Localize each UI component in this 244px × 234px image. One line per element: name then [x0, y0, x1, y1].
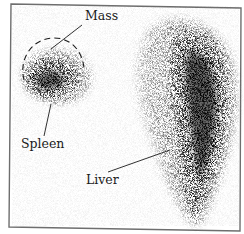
scintigraphy-image: Mass Spleen Liver	[0, 0, 244, 234]
mass-label: Mass	[85, 8, 118, 23]
spleen-label: Spleen	[21, 136, 64, 151]
liver-label: Liver	[86, 172, 119, 187]
spleen-uptake	[22, 48, 94, 104]
